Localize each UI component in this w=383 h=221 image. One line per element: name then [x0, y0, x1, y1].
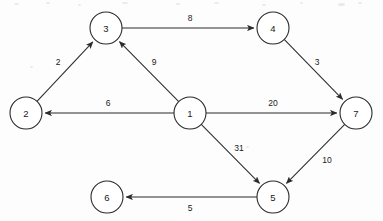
- edge-weight-2-3: 2: [56, 57, 61, 67]
- edge-weight-1-5: 31: [234, 143, 244, 153]
- graph-svg: 289362031105 1234567: [0, 0, 383, 221]
- node-label-6: 6: [104, 192, 109, 203]
- node-label-4: 4: [270, 23, 275, 34]
- edge-weight-3-4: 8: [188, 13, 193, 23]
- scan-speck: [30, 66, 33, 68]
- scan-speck: [338, 3, 345, 6]
- graph-node-3[interactable]: 3: [90, 12, 122, 44]
- scan-speck: [122, 2, 128, 4]
- edge-weight-5-6: 5: [188, 203, 193, 213]
- graph-node-6[interactable]: 6: [91, 181, 123, 213]
- graph-diagram-canvas: 289362031105 1234567: [0, 0, 383, 221]
- scan-speck: [214, 2, 219, 4]
- edge-weight-1-2: 6: [106, 98, 111, 108]
- scan-speck: [358, 2, 362, 4]
- edge-weight-1-3: 9: [152, 57, 157, 67]
- scan-speck: [300, 2, 303, 4]
- graph-edge-4-to-7: [284, 39, 342, 99]
- graph-node-2[interactable]: 2: [10, 97, 42, 129]
- node-label-1: 1: [187, 108, 192, 119]
- graph-node-7[interactable]: 7: [340, 97, 372, 129]
- scan-speck: [176, 3, 180, 5]
- graph-edge-7-to-5: [286, 124, 344, 183]
- node-label-2: 2: [23, 108, 28, 119]
- edge-weight-4-7: 3: [315, 57, 320, 67]
- node-label-5: 5: [270, 192, 275, 203]
- graph-node-5[interactable]: 5: [257, 181, 289, 213]
- node-label-7: 7: [353, 108, 358, 119]
- scan-speck: [78, 4, 81, 6]
- graph-edge-2-to-3: [37, 42, 93, 101]
- graph-edge-1-to-3: [119, 42, 178, 102]
- edge-weight-7-5: 10: [322, 155, 332, 165]
- edge-weight-1-7: 20: [268, 98, 278, 108]
- scan-speck: [46, 2, 50, 4]
- scan-speck: [14, 3, 19, 5]
- graph-node-4[interactable]: 4: [257, 12, 289, 44]
- scan-speck: [262, 4, 266, 6]
- graph-edge-1-to-5: [201, 124, 259, 183]
- graph-node-1[interactable]: 1: [174, 97, 206, 129]
- scan-speck: [246, 146, 249, 148]
- node-label-3: 3: [103, 23, 108, 34]
